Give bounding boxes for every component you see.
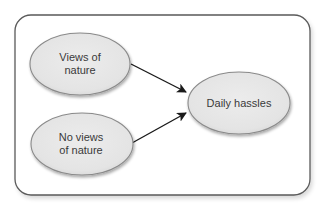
node-label-line: of nature (59, 144, 102, 156)
diagram-canvas: Views of nature No views of nature Daily… (0, 0, 331, 207)
node-daily-hassles: Daily hassles (188, 72, 290, 134)
node-label-line: Daily hassles (207, 97, 272, 109)
node-label-line: No views (59, 131, 104, 143)
node-label-line: nature (64, 64, 95, 76)
node-no-views-of-nature: No views of nature (31, 113, 133, 175)
node-views-of-nature: Views of nature (30, 33, 130, 95)
node-label-line: Views of (59, 51, 101, 63)
